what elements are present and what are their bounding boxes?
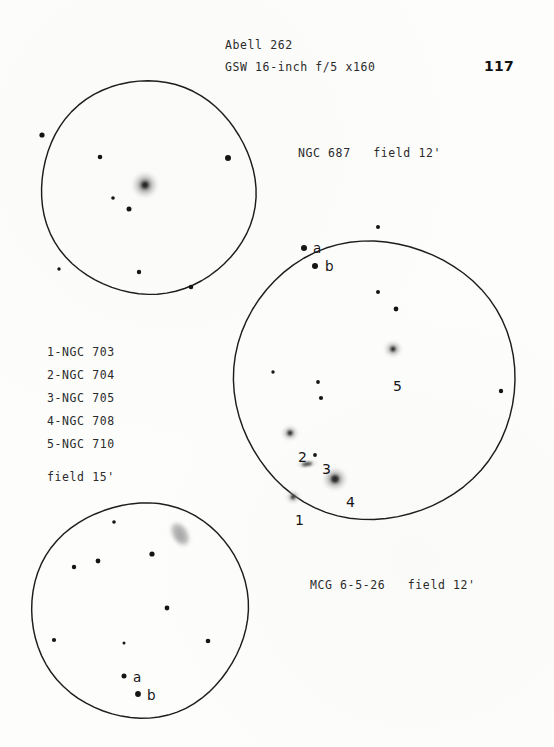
- star-dot: [123, 642, 126, 645]
- caption-ngc-687: NGC 687 field 12': [298, 148, 441, 160]
- star-dot: [312, 263, 318, 269]
- galaxy-label-5: 5: [393, 378, 402, 394]
- star-dot: [112, 520, 116, 524]
- galaxy-core: [332, 476, 338, 482]
- star-dot: [165, 606, 170, 611]
- star-dot: [319, 396, 323, 400]
- star-dot: [189, 285, 194, 290]
- star-dot: [122, 674, 127, 679]
- galaxy-label-1: 1: [295, 512, 304, 528]
- star-dot: [72, 565, 76, 569]
- star-dot: [98, 155, 103, 160]
- star-dot: [271, 370, 274, 373]
- object-title: Abell 262: [225, 40, 293, 52]
- caption-cluster-field: field 15': [47, 470, 115, 484]
- star-dot: [316, 380, 320, 384]
- star-dot: [206, 639, 211, 644]
- star-label-b: b: [325, 258, 334, 274]
- star-dot: [376, 225, 380, 229]
- galaxy-label-4: 4: [346, 494, 355, 510]
- star-dot: [137, 270, 141, 274]
- star-dot: [394, 307, 399, 312]
- field-circle: [233, 241, 515, 519]
- star-dot: [499, 389, 503, 393]
- galaxy-core: [142, 182, 148, 188]
- abell-262-cluster-circle: [233, 225, 515, 519]
- galaxy-label-3: 3: [322, 461, 331, 477]
- galaxy-marker: [383, 340, 403, 359]
- galaxy-core: [291, 495, 295, 499]
- star-dot: [57, 267, 60, 270]
- instrument-line: GSW 16-inch f/5 x160: [225, 62, 375, 74]
- star-dot: [149, 551, 154, 556]
- galaxy-marker: [281, 424, 300, 441]
- star-dot: [225, 155, 231, 161]
- star-dot: [376, 290, 380, 294]
- star-dot: [301, 245, 307, 251]
- star-label-a: a: [313, 240, 321, 256]
- star-dot: [135, 691, 141, 697]
- star-dot: [96, 559, 101, 564]
- legend-item-3: 3-NGC 705: [47, 391, 115, 405]
- galaxy-marker: [131, 171, 159, 199]
- star-dot: [111, 196, 115, 200]
- mcg-6-5-26-eyepiece-circle: [32, 503, 249, 718]
- star-dot: [39, 132, 44, 137]
- sketch-page: Abell 262 GSW 16-inch f/5 x160 117 NGC 6…: [0, 0, 554, 747]
- legend-item-5: 5-NGC 710: [47, 437, 115, 451]
- star-label-b: b: [147, 687, 156, 703]
- ngc-687-eyepiece-circle: [39, 81, 256, 295]
- star-dot: [313, 453, 317, 457]
- galaxy-core: [391, 347, 395, 351]
- galaxy-label-2: 2: [298, 449, 307, 465]
- legend-item-1: 1-NGC 703: [47, 345, 115, 359]
- page-number: 117: [484, 58, 514, 74]
- legend-item-2: 2-NGC 704: [47, 368, 115, 382]
- galaxy-core: [288, 431, 292, 435]
- star-dot: [52, 638, 56, 642]
- galaxy-marker: [169, 521, 191, 547]
- legend-item-4: 4-NGC 708: [47, 414, 115, 428]
- galaxy-marker: [284, 489, 301, 505]
- star-label-a: a: [133, 669, 141, 685]
- field-circle: [32, 503, 249, 718]
- star-dot: [127, 207, 132, 212]
- caption-mcg-6-5-26: MCG 6-5-26 field 12': [310, 580, 476, 592]
